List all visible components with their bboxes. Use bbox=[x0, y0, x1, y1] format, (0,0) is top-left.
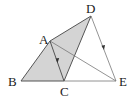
arrow-icon-de bbox=[102, 45, 106, 50]
geometry-diagram: A B C D E bbox=[0, 0, 133, 99]
label-d: D bbox=[86, 1, 95, 16]
label-b: B bbox=[8, 74, 17, 89]
shaded-region-abcd bbox=[21, 16, 91, 81]
label-c: C bbox=[60, 84, 69, 99]
label-e: E bbox=[119, 74, 127, 89]
label-a: A bbox=[39, 32, 49, 47]
